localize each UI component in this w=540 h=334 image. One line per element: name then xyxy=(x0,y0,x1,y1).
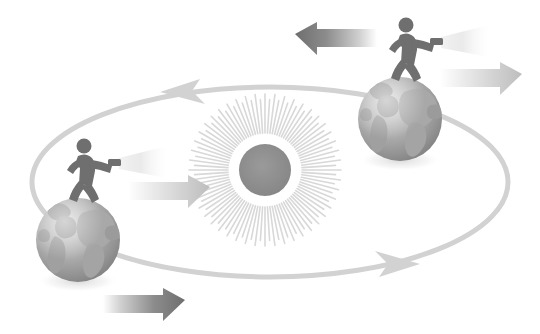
earth-far-figure xyxy=(389,18,443,83)
sun-ray xyxy=(302,172,336,174)
earth-far-gloss xyxy=(358,77,442,161)
earth-far-beam xyxy=(441,25,489,57)
diagram-canvas xyxy=(0,0,540,334)
arrow-middle-right-pointing xyxy=(128,175,210,208)
arrow-bottom-right-pointing xyxy=(103,288,185,321)
sun-ray xyxy=(302,165,336,167)
sun-ray xyxy=(260,207,262,241)
sun-ray xyxy=(267,99,269,133)
sun-ray xyxy=(194,172,228,174)
sun-core xyxy=(239,144,291,196)
orbit-diagram-svg xyxy=(0,0,540,334)
figure-flashlight xyxy=(108,159,121,166)
earth-near-figure xyxy=(67,139,121,204)
sun-ray xyxy=(260,99,262,133)
figure-head xyxy=(399,18,414,33)
figure-head xyxy=(77,139,92,154)
arrow-top-right-pointing xyxy=(440,62,522,95)
earth-near-beam xyxy=(119,146,167,178)
sun-ray xyxy=(194,165,228,167)
earth-near xyxy=(36,139,167,293)
earth-near-gloss xyxy=(36,198,120,282)
arrow-top-left-pointing xyxy=(295,22,377,55)
figure-flashlight xyxy=(430,38,443,45)
sun-group xyxy=(189,94,341,246)
earth-far xyxy=(358,18,489,172)
sun-ray xyxy=(267,207,269,241)
